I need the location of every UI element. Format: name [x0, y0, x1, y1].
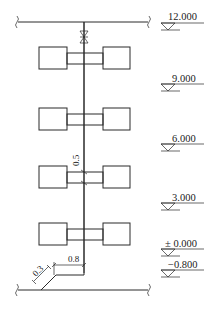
svg-text:0.3: 0.3 [30, 263, 45, 278]
bottom-main-pipe [16, 284, 151, 296]
svg-text:0.5: 0.5 [71, 154, 81, 166]
top-main-pipe [16, 16, 151, 28]
elevation-3-000: 3.000 [161, 192, 204, 210]
dimension-0-3: 0.3 [30, 263, 51, 284]
elevation-0-000: ± 0.000 [161, 238, 204, 256]
elevation-9-000: 9.000 [161, 73, 204, 91]
dimension-0-5: 0.5 [71, 154, 87, 185]
elevation-12-000: 12.000 [161, 11, 204, 30]
elevation-6-000: 6.000 [161, 133, 204, 151]
svg-text:6.000: 6.000 [172, 133, 196, 144]
dimension-0-8: 0.8 [52, 254, 86, 275]
svg-text:± 0.000: ± 0.000 [165, 238, 197, 249]
svg-text:−0.800: −0.800 [168, 259, 198, 270]
svg-text:12.000: 12.000 [168, 11, 197, 22]
elevation-minus-0-800: −0.800 [161, 259, 204, 277]
riser-diagram: 0.5 0.8 0.3 12.000 9.000 6.0 [0, 0, 215, 309]
svg-text:0.8: 0.8 [68, 254, 80, 264]
svg-text:3.000: 3.000 [172, 192, 196, 203]
bottom-offset-pipe [41, 275, 84, 290]
svg-text:9.000: 9.000 [172, 73, 196, 84]
